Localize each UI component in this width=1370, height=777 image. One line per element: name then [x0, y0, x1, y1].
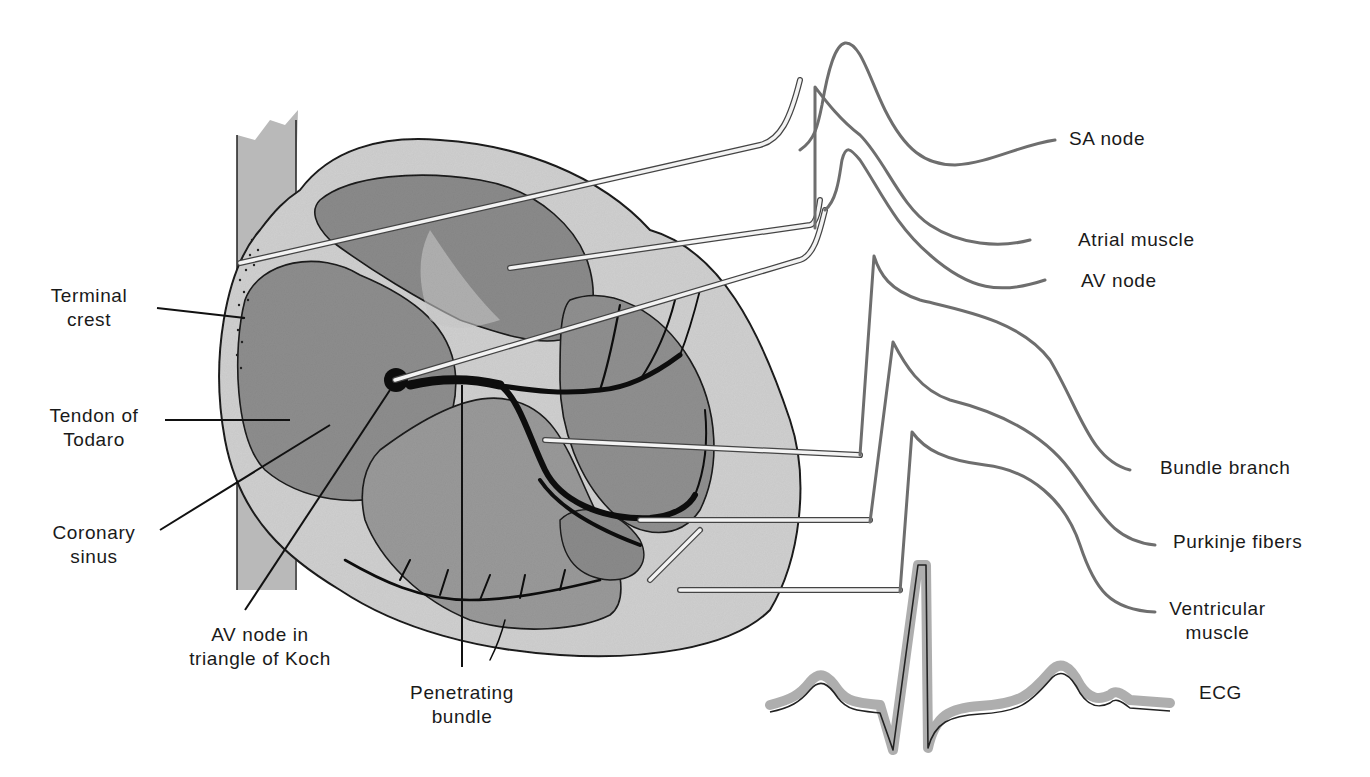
label-ecg: ECG: [1199, 681, 1242, 705]
his-bundle: [410, 380, 500, 385]
label-terminal-crest: Terminal crest: [24, 284, 154, 332]
label-line: Terminal: [24, 284, 154, 308]
label-tendon-of-todaro: Tendon of Todaro: [24, 404, 164, 452]
label-purkinje-fibers: Purkinje fibers: [1173, 530, 1302, 554]
label-sa-node: SA node: [1069, 127, 1145, 151]
label-bundle-branch: Bundle branch: [1160, 456, 1290, 480]
trace-atrial: [815, 87, 1030, 244]
label-av-node: AV node: [1081, 269, 1157, 293]
label-line: AV node in: [165, 623, 355, 647]
conduction-diagram: Terminal crest Tendon of Todaro Coronary…: [0, 0, 1370, 777]
label-line: muscle: [1165, 621, 1270, 645]
label-line: Coronary: [24, 521, 164, 545]
trace-purkinje: [870, 342, 1155, 545]
label-ventricular-muscle: Ventricular muscle: [1165, 597, 1270, 645]
trace-sa-node: [800, 43, 1055, 165]
label-coronary-sinus: Coronary sinus: [24, 521, 164, 569]
trace-av-node: [825, 150, 1045, 288]
trace-ventricular: [900, 432, 1155, 612]
label-atrial-muscle: Atrial muscle: [1078, 228, 1195, 252]
label-line: bundle: [392, 705, 532, 729]
label-line: triangle of Koch: [165, 647, 355, 671]
label-line: Tendon of: [24, 404, 164, 428]
label-av-node-koch: AV node in triangle of Koch: [165, 623, 355, 671]
label-penetrating-bundle: Penetrating bundle: [392, 681, 532, 729]
label-line: sinus: [24, 545, 164, 569]
label-line: crest: [24, 308, 154, 332]
label-line: Ventricular: [1165, 597, 1270, 621]
label-line: Todaro: [24, 428, 164, 452]
label-line: Penetrating: [392, 681, 532, 705]
